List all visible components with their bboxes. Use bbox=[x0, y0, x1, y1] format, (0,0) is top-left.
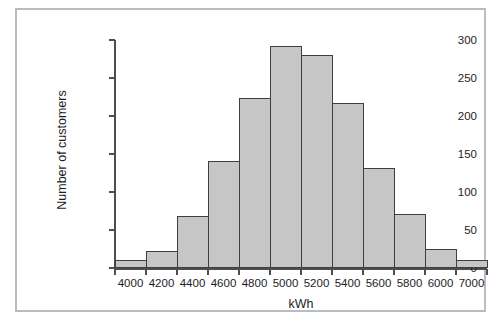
y-tick-label: 50 bbox=[443, 224, 477, 236]
y-tick-mark bbox=[109, 115, 115, 117]
plot-area: 050100150200250300 400042004400460048005… bbox=[115, 32, 487, 268]
y-tick-mark bbox=[109, 153, 115, 155]
x-tick-mark bbox=[486, 269, 488, 275]
x-tick-mark bbox=[424, 269, 426, 275]
y-tick-mark bbox=[109, 77, 115, 79]
histogram-bar bbox=[208, 161, 240, 268]
x-tick-mark bbox=[207, 269, 209, 275]
y-tick-label: 100 bbox=[443, 186, 477, 198]
y-tick-mark bbox=[109, 191, 115, 193]
x-tick-mark bbox=[393, 269, 395, 275]
histogram-bar bbox=[394, 214, 426, 268]
y-tick-mark bbox=[109, 229, 115, 231]
y-axis-title: Number of customers bbox=[55, 32, 69, 268]
y-tick-label: 250 bbox=[443, 72, 477, 84]
x-tick-mark bbox=[238, 269, 240, 275]
histogram-bar bbox=[332, 103, 364, 268]
x-tick-mark bbox=[114, 269, 116, 275]
y-tick-label: 300 bbox=[443, 34, 477, 46]
x-tick-mark bbox=[145, 269, 147, 275]
x-tick-label: 7000 bbox=[450, 277, 494, 289]
histogram-bar bbox=[115, 260, 147, 268]
y-tick-mark bbox=[109, 39, 115, 41]
x-axis-title: kWh bbox=[115, 297, 487, 311]
x-tick-mark bbox=[455, 269, 457, 275]
histogram-bar bbox=[456, 260, 488, 268]
histogram-bar bbox=[301, 55, 333, 268]
histogram-bar bbox=[177, 216, 209, 268]
x-tick-mark bbox=[331, 269, 333, 275]
figure-frame: Number of customers kWh 0501001502002503… bbox=[15, 8, 486, 312]
y-tick-label: 150 bbox=[443, 148, 477, 160]
histogram-bar bbox=[363, 168, 395, 268]
y-tick-label: 200 bbox=[443, 110, 477, 122]
histogram-bar bbox=[270, 46, 302, 268]
histogram-figure: Number of customers kWh 0501001502002503… bbox=[0, 0, 501, 328]
histogram-bar bbox=[146, 251, 178, 268]
x-tick-mark bbox=[362, 269, 364, 275]
histogram-bar bbox=[425, 249, 457, 268]
x-tick-mark bbox=[269, 269, 271, 275]
histogram-bar bbox=[239, 98, 271, 268]
x-tick-mark bbox=[176, 269, 178, 275]
x-tick-mark bbox=[300, 269, 302, 275]
